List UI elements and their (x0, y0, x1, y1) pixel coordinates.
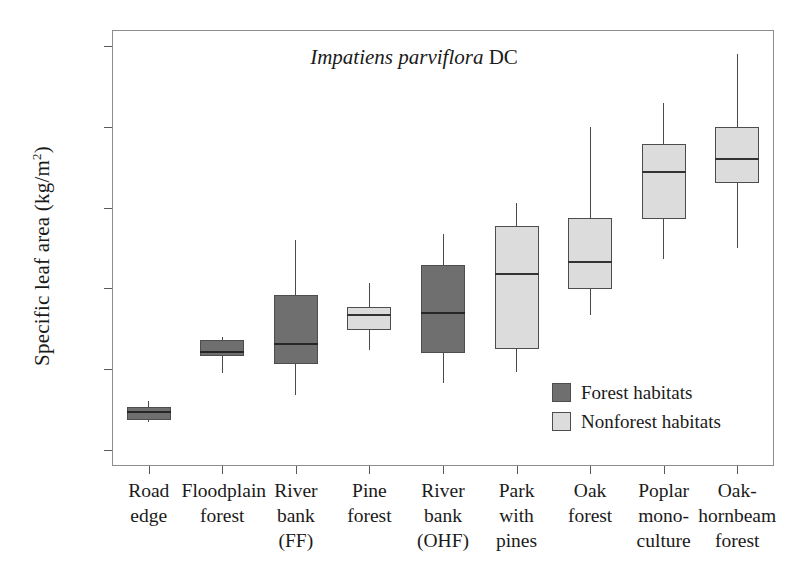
median-line (200, 351, 244, 353)
legend-swatch-forest (552, 383, 571, 402)
whisker-upper (295, 240, 296, 295)
whisker-lower (443, 353, 444, 382)
whisker-lower (222, 356, 223, 373)
whisker-lower (663, 219, 664, 259)
legend-item-forest: Forest habitats (552, 378, 721, 407)
x-tick-mark (149, 466, 150, 474)
whisker-lower (295, 364, 296, 395)
median-line (568, 261, 612, 263)
whisker-lower (369, 330, 370, 350)
median-line (347, 314, 391, 316)
y-axis-title-main: Specific leaf area (kg/m (30, 160, 54, 366)
whisker-upper (516, 203, 517, 226)
x-tick-label: Pine forest (329, 478, 411, 528)
x-tick-mark (664, 466, 665, 474)
legend-label: Forest habitats (581, 382, 692, 404)
x-tick-label: Oak- hornbeam forest (696, 478, 778, 553)
box-plot-item (421, 30, 465, 466)
whisker-lower (148, 420, 149, 421)
legend-swatch-nonforest (552, 412, 571, 431)
box-iqr (568, 218, 612, 289)
y-tick-mark (104, 450, 112, 451)
whisker-upper (737, 54, 738, 127)
median-line (127, 411, 171, 413)
median-line (642, 171, 686, 173)
x-tick-mark (369, 466, 370, 474)
x-tick-mark (296, 466, 297, 474)
x-tick-mark (222, 466, 223, 474)
box-plot-item (274, 30, 318, 466)
box-plot-item (347, 30, 391, 466)
x-tick-label: Oak forest (549, 478, 631, 528)
box-plot-figure: Specific leaf area (kg/m2) 6080100120140… (0, 0, 810, 574)
y-axis-title-exponent: 2 (29, 153, 44, 160)
x-tick-label: River bank (FF) (255, 478, 337, 553)
box-iqr (200, 340, 244, 356)
box-iqr (274, 295, 318, 364)
box-plot-item (495, 30, 539, 466)
y-axis-title-close: ) (30, 146, 54, 153)
whisker-lower (737, 183, 738, 248)
whisker-upper (443, 234, 444, 265)
median-line (274, 343, 318, 345)
y-tick-mark (104, 369, 112, 370)
median-line (715, 158, 759, 160)
legend-item-nonforest: Nonforest habitats (552, 407, 721, 436)
x-tick-label: River bank (OHF) (402, 478, 484, 553)
whisker-lower (590, 289, 591, 314)
y-tick-mark (104, 288, 112, 289)
whisker-upper (590, 127, 591, 217)
box-iqr (347, 307, 391, 330)
y-axis-title: Specific leaf area (kg/m2) (29, 46, 55, 466)
x-tick-mark (517, 466, 518, 474)
x-tick-mark (443, 466, 444, 474)
whisker-upper (369, 283, 370, 306)
x-tick-mark (590, 466, 591, 474)
x-tick-label: Floodplain forest (182, 478, 264, 528)
box-iqr (642, 144, 686, 219)
x-axis: Road edgeFloodplain forestRiver bank (FF… (112, 466, 774, 574)
box-plot-item (200, 30, 244, 466)
box-iqr (421, 265, 465, 353)
median-line (495, 273, 539, 275)
box-iqr (495, 226, 539, 349)
x-tick-label: Road edge (108, 478, 190, 528)
x-tick-label: Poplar mono- culture (623, 478, 705, 553)
legend: Forest habitatsNonforest habitats (552, 378, 721, 436)
y-tick-mark (104, 208, 112, 209)
whisker-upper (663, 103, 664, 144)
x-tick-label: Park with pines (476, 478, 558, 553)
x-tick-mark (737, 466, 738, 474)
y-tick-mark (104, 127, 112, 128)
median-line (421, 312, 465, 314)
box-iqr (715, 127, 759, 184)
box-iqr (127, 407, 171, 420)
legend-label: Nonforest habitats (581, 411, 721, 433)
box-plot-item (715, 30, 759, 466)
whisker-lower (516, 349, 517, 372)
box-plot-item (127, 30, 171, 466)
